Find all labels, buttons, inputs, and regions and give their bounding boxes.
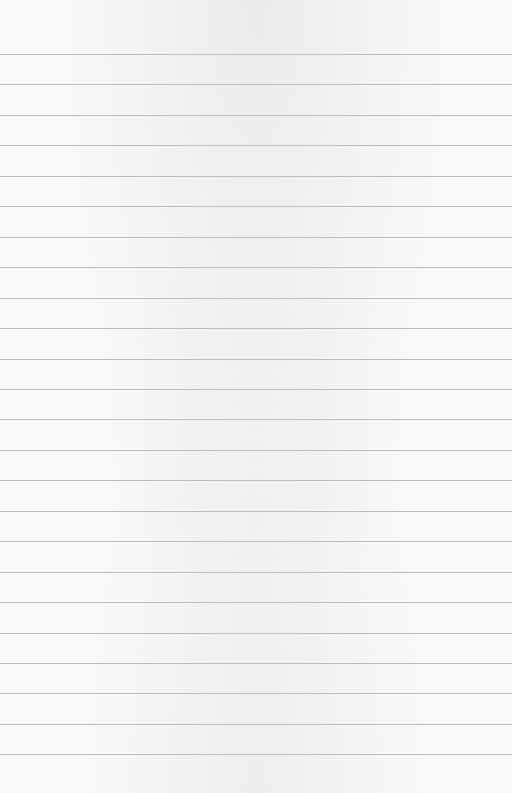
ruled-line — [0, 206, 512, 207]
ruled-line — [0, 663, 512, 664]
ruled-line — [0, 298, 512, 299]
ruled-line — [0, 480, 512, 481]
ruled-line — [0, 237, 512, 238]
ruled-line — [0, 724, 512, 725]
ruled-line — [0, 602, 512, 603]
ruled-line — [0, 267, 512, 268]
ruled-line — [0, 328, 512, 329]
ruled-line — [0, 633, 512, 634]
ruled-line — [0, 572, 512, 573]
ruled-line — [0, 176, 512, 177]
ruled-line — [0, 115, 512, 116]
lined-paper-sheet — [0, 0, 512, 793]
ruled-line — [0, 145, 512, 146]
ruled-line — [0, 359, 512, 360]
ruled-line — [0, 511, 512, 512]
ruled-line — [0, 450, 512, 451]
ruled-line — [0, 54, 512, 55]
ruled-line — [0, 754, 512, 755]
ruled-line — [0, 389, 512, 390]
ruled-line — [0, 541, 512, 542]
ruled-line — [0, 419, 512, 420]
ruled-line — [0, 693, 512, 694]
ruled-line — [0, 84, 512, 85]
